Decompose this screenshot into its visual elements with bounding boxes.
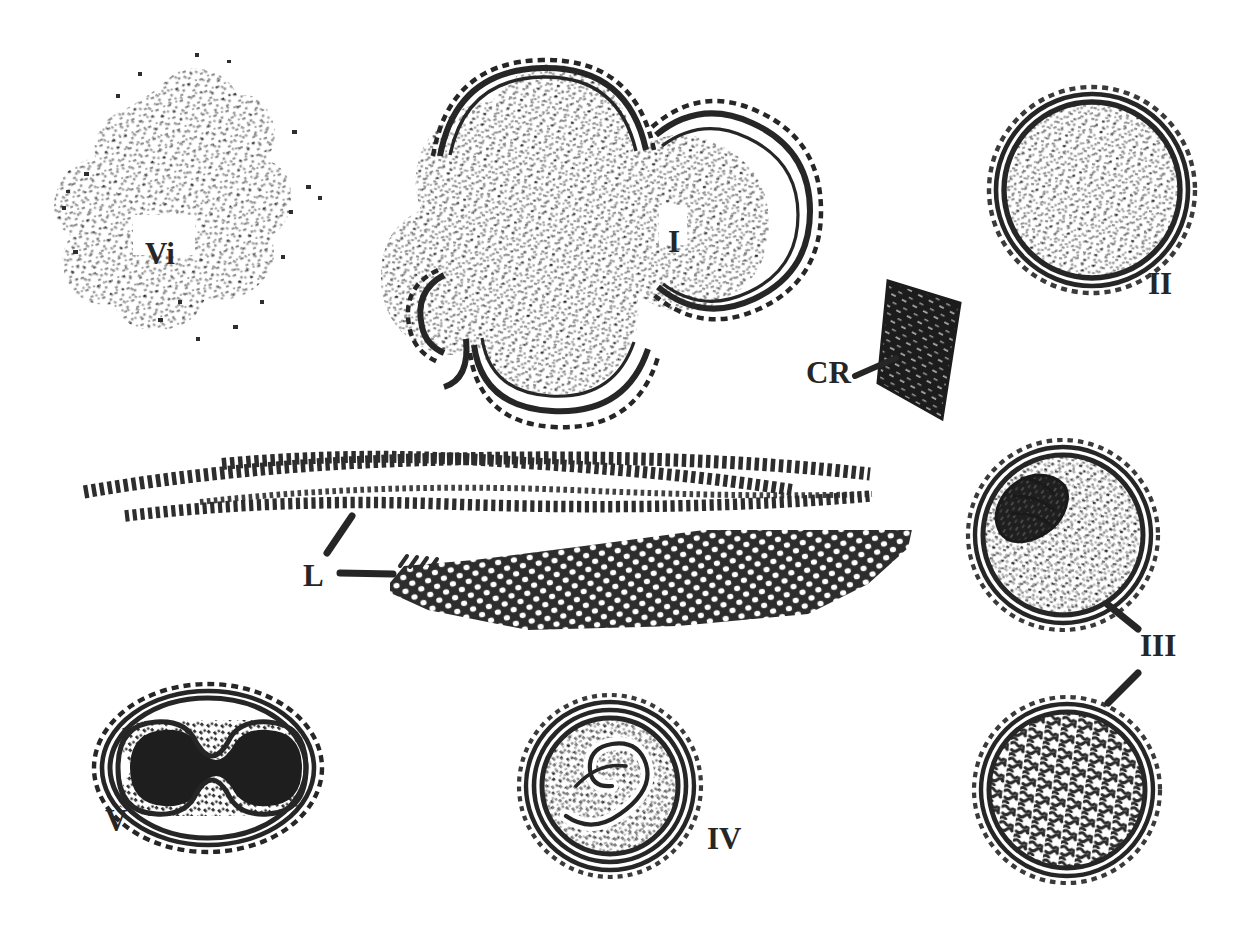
l-leader-to-blade <box>340 573 393 574</box>
label-iii: III <box>1140 630 1176 661</box>
label-vi: Vi <box>145 238 175 269</box>
figure-plate: Vi I II CR L III IV V <box>0 0 1239 932</box>
label-cr: CR <box>806 357 851 388</box>
label-l: L <box>303 560 324 591</box>
label-v: V <box>105 805 127 836</box>
label-ii: II <box>1148 268 1172 299</box>
label-iv: IV <box>707 823 741 854</box>
figure-canvas <box>0 0 1239 932</box>
label-i: I <box>668 226 680 257</box>
